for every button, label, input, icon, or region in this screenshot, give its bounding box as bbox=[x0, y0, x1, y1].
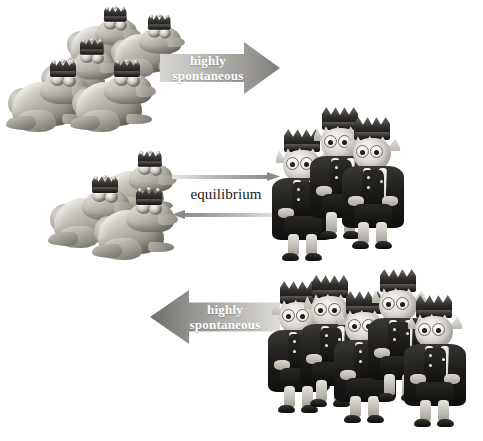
arrow-highly-spontaneous-forward: highly spontaneous bbox=[160, 42, 280, 94]
prince-shoe bbox=[310, 399, 327, 407]
prince-shoe bbox=[352, 241, 369, 249]
frog-group-top bbox=[8, 2, 173, 134]
prince-button bbox=[380, 180, 383, 183]
figure-canvas: highly spontaneous bbox=[0, 0, 483, 441]
equilibrium-arrow-reverse bbox=[172, 210, 280, 219]
prince-shirt bbox=[424, 348, 446, 382]
prince-shoe bbox=[320, 231, 337, 239]
crown-icon bbox=[416, 296, 452, 318]
prince-eye bbox=[286, 157, 299, 170]
arrow-label-line1: highly bbox=[190, 53, 226, 68]
frog-foot bbox=[70, 116, 100, 130]
arrow-label-line2: spontaneous bbox=[173, 68, 244, 83]
prince-group-bottom bbox=[268, 268, 478, 438]
arrow-label: highly spontaneous bbox=[190, 302, 261, 332]
prince-shoe bbox=[375, 241, 392, 249]
prince-eye bbox=[418, 323, 431, 336]
crowned-prince bbox=[404, 296, 466, 428]
frog-snout bbox=[136, 86, 156, 97]
crowned-frog bbox=[92, 190, 178, 264]
frog-foot bbox=[92, 244, 122, 258]
prince-button bbox=[429, 354, 432, 357]
equilibrium-arrow-forward bbox=[172, 172, 280, 181]
arrow-head-left bbox=[172, 210, 185, 219]
prince-button bbox=[359, 350, 362, 353]
prince-button bbox=[297, 188, 300, 191]
prince-button bbox=[393, 328, 396, 331]
crown-icon bbox=[148, 15, 171, 30]
prince-shoe bbox=[282, 253, 299, 261]
prince-button bbox=[442, 358, 445, 361]
prince-eye bbox=[324, 135, 337, 148]
arrow-shaft bbox=[184, 213, 280, 217]
arrow-shaft bbox=[172, 175, 268, 179]
prince-button bbox=[367, 186, 370, 189]
crown-icon bbox=[80, 39, 104, 55]
equilibrium-arrows: equilibrium bbox=[172, 172, 280, 222]
prince-button bbox=[293, 350, 296, 353]
prince-eye bbox=[370, 145, 383, 158]
prince-shoe bbox=[414, 419, 431, 427]
prince-eye bbox=[356, 145, 369, 158]
prince-eye bbox=[348, 319, 361, 332]
prince-eye bbox=[314, 303, 327, 316]
crown-icon bbox=[380, 270, 416, 292]
frog-group-middle bbox=[48, 150, 178, 260]
arrow-label-line1: highly bbox=[207, 302, 243, 317]
prince-shoe bbox=[344, 415, 361, 423]
prince-shoe bbox=[367, 415, 384, 423]
arrow-highly-spontaneous-reverse: highly spontaneous bbox=[150, 290, 280, 344]
frog-foot bbox=[6, 116, 36, 130]
prince-shoe bbox=[378, 393, 395, 401]
prince-button bbox=[297, 198, 300, 201]
prince-button bbox=[335, 176, 338, 179]
crown-icon bbox=[114, 60, 140, 77]
arrow-label-line2: spontaneous bbox=[190, 317, 261, 332]
prince-group-middle bbox=[272, 108, 402, 248]
frog-hand bbox=[148, 242, 174, 252]
crown-icon bbox=[138, 151, 162, 167]
crowned-prince bbox=[342, 118, 404, 250]
prince-shoe bbox=[437, 419, 454, 427]
prince-button bbox=[335, 166, 338, 169]
crown-icon bbox=[354, 118, 390, 140]
prince-button bbox=[325, 344, 328, 347]
frog-foot bbox=[48, 232, 78, 246]
prince-shoe bbox=[305, 253, 322, 261]
crown-icon bbox=[136, 188, 162, 205]
prince-eye bbox=[282, 309, 295, 322]
prince-button bbox=[367, 176, 370, 179]
prince-button bbox=[393, 338, 396, 341]
equilibrium-label: equilibrium bbox=[172, 186, 280, 203]
prince-shoe bbox=[278, 405, 295, 413]
prince-eye bbox=[382, 297, 395, 310]
prince-shirt bbox=[362, 170, 384, 204]
crowned-frog bbox=[70, 62, 156, 136]
frog-hand bbox=[126, 114, 152, 124]
prince-button bbox=[429, 364, 432, 367]
arrow-label: highly spontaneous bbox=[173, 53, 244, 83]
prince-button bbox=[325, 334, 328, 337]
prince-eye bbox=[432, 323, 445, 336]
prince-button bbox=[359, 360, 362, 363]
prince-button bbox=[293, 340, 296, 343]
